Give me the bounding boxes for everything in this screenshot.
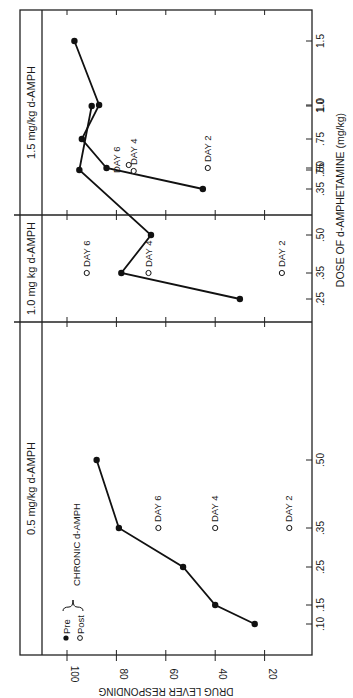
- pre-point: [118, 270, 124, 276]
- pre-point: [71, 38, 77, 44]
- post-point: [131, 168, 136, 173]
- y-axis-label: DRUG LEVER RESPONDING: [98, 686, 233, 697]
- pre-line: [74, 41, 202, 189]
- post-point: [213, 525, 218, 530]
- x-tick-label: .25: [315, 292, 326, 306]
- x-tick-label: 1.0: [315, 98, 326, 112]
- post-point: [84, 270, 89, 275]
- x-axis-label: DOSE OF d-AMPHETAMINE (mg/kg): [334, 113, 346, 287]
- panel-3: 1.5 mg/kg d-AMPH.35.50.751.01.5DAY 6DAY …: [14, 10, 326, 215]
- post-label: DAY 2: [276, 240, 287, 267]
- post-label: DAY 2: [283, 495, 294, 522]
- x-tick-label: .50: [315, 228, 326, 242]
- panel-title: 1.5 mg/kg d-AMPH: [25, 66, 37, 159]
- post-point: [279, 270, 284, 275]
- panel-title: 1.0 mg kg d-AMPH: [25, 222, 37, 315]
- panel-2: 1.0 mg kg d-AMPH.25.35.50.751.0DAY 6DAY …: [14, 99, 326, 322]
- x-tick-label: .50: [315, 161, 326, 175]
- post-label: DAY 4: [209, 495, 220, 522]
- x-tick-label: .50: [315, 453, 326, 467]
- post-label: DAY 4: [128, 138, 139, 165]
- pre-point: [96, 102, 102, 108]
- pre-point: [89, 103, 95, 109]
- pre-point: [76, 167, 82, 173]
- panel-1: 0.5 mg/kg d-AMPH.10.15.25.35.50DAY 6DAY …: [25, 322, 326, 655]
- x-tick-label: .15: [315, 598, 326, 612]
- x-tick-label: .75: [315, 132, 326, 146]
- y-tick-label: 100: [69, 666, 80, 683]
- plot-frame: [20, 10, 312, 655]
- pre-point: [212, 602, 218, 608]
- pre-point: [252, 621, 258, 627]
- post-point: [156, 525, 161, 530]
- pre-point: [93, 457, 99, 463]
- post-label: DAY 6: [152, 495, 163, 522]
- y-tick-label: 20: [267, 668, 278, 680]
- post-label: DAY 6: [111, 146, 122, 173]
- post-point: [146, 270, 151, 275]
- x-tick-label: 1.5: [315, 34, 326, 48]
- post-label: DAY 4: [143, 240, 154, 267]
- pre-point: [116, 525, 122, 531]
- x-tick-label: .25: [315, 560, 326, 574]
- x-tick-label: .35: [315, 521, 326, 535]
- post-label: DAY 2: [202, 135, 213, 162]
- post-point: [287, 525, 292, 530]
- pre-point: [79, 136, 85, 142]
- pre-point: [148, 232, 154, 238]
- y-tick-label: 40: [217, 668, 228, 680]
- svg-text:Post: Post: [75, 615, 86, 634]
- svg-text:Pre: Pre: [61, 619, 72, 634]
- post-label: DAY 6: [81, 240, 92, 267]
- x-tick-label: .35: [315, 266, 326, 280]
- post-point: [205, 165, 210, 170]
- pre-point: [180, 564, 186, 570]
- pre-point: [200, 186, 206, 192]
- legend: PrePostCHRONIC d-AMPH: [61, 503, 86, 641]
- x-tick-label: .10: [315, 617, 326, 631]
- pre-point: [103, 165, 109, 171]
- pre-point: [237, 296, 243, 302]
- pre-line: [97, 460, 255, 624]
- panel-title: 0.5 mg/kg d-AMPH: [25, 442, 37, 535]
- chart: 0.5 mg/kg d-AMPH.10.15.25.35.50DAY 6DAY …: [0, 0, 353, 698]
- svg-text:CHRONIC d-AMPH: CHRONIC d-AMPH: [71, 503, 82, 586]
- pre-line: [79, 106, 240, 299]
- y-tick-label: 60: [168, 668, 179, 680]
- y-tick-label: 80: [118, 668, 129, 680]
- x-tick-label: .35: [315, 182, 326, 196]
